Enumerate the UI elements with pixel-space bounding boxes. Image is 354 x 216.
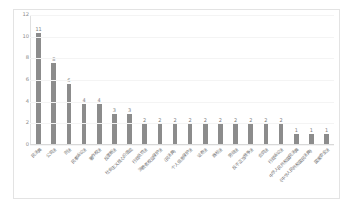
x-axis-label-column: 公司法	[46, 146, 61, 200]
bar-rect[interactable]	[127, 114, 132, 144]
plot-area: 118644332222222222111	[30, 15, 334, 145]
bar-rect[interactable]	[51, 63, 56, 144]
bar-rect[interactable]	[203, 124, 208, 144]
x-axis-tick-label: 合同法	[257, 147, 269, 159]
y-axis-tick-label: 0	[16, 142, 29, 147]
bar-value-label: 2	[258, 118, 273, 123]
bar-value-label: 2	[183, 118, 198, 123]
bar-value-label: 2	[152, 118, 167, 123]
bar-rect[interactable]	[36, 33, 41, 144]
x-axis-label-column: （民法典）	[167, 146, 182, 200]
y-axis-tick-label: 6	[16, 77, 29, 82]
bar-rect[interactable]	[264, 124, 269, 144]
bar-value-label: 1	[319, 128, 334, 133]
x-axis-tick-label: 刑法	[63, 147, 72, 156]
chart-plot-wrapper: 024681012 118644332222222222111 民法典公司法刑法…	[14, 10, 339, 198]
x-axis-label-column: 证券法	[198, 146, 213, 200]
bar-value-label: 2	[137, 118, 152, 123]
y-axis-tick-label: 4	[16, 99, 29, 104]
x-axis-label-column: 劳动法	[228, 146, 243, 200]
y-axis-tick-label: 10	[16, 34, 29, 39]
bar-value-label: 2	[228, 118, 243, 123]
bar-rect[interactable]	[188, 124, 193, 144]
x-axis-tick-label: 公司法	[45, 147, 57, 159]
x-axis-label-column: 行政处罚法	[137, 146, 152, 200]
x-axis-tick-label: 民法典	[30, 147, 42, 159]
x-axis-tick-label: 商标法	[212, 147, 224, 159]
bar-value-label: 2	[198, 118, 213, 123]
bar-rect[interactable]	[173, 124, 178, 144]
gridline	[30, 15, 334, 16]
x-axis-labels: 民法典公司法刑法民事诉讼法著作权法反垄断法社会主义核心价值观行政处罚法消费者权益…	[31, 146, 334, 200]
bar-rect[interactable]	[218, 124, 223, 144]
x-axis-label-column: 《中华人民共和国民法典》	[304, 146, 319, 200]
bar-rect[interactable]	[248, 124, 253, 144]
bar-value-label: 2	[243, 118, 258, 123]
gridline	[30, 102, 334, 103]
x-axis-label-column: 民法典	[31, 146, 46, 200]
bar-value-label: 1	[304, 128, 319, 133]
x-axis-label-column: 商标法	[213, 146, 228, 200]
x-axis-label-column: 国家安全法	[319, 146, 334, 200]
bar-rect[interactable]	[112, 114, 117, 144]
bar-rect[interactable]	[158, 124, 163, 144]
x-axis-tick-label: 劳动法	[227, 147, 239, 159]
x-axis-label-column: 民事诉讼法	[76, 146, 91, 200]
x-axis-label-column: 刑法	[61, 146, 76, 200]
bar-value-label: 3	[122, 108, 137, 113]
x-axis-label-column: 反不正当竞争法	[243, 146, 258, 200]
x-axis-label-column: 消费者权益保护法	[152, 146, 167, 200]
x-axis-label-column: 个人信息保护法	[183, 146, 198, 200]
gridline	[30, 80, 334, 81]
gridline	[30, 123, 334, 124]
x-axis-label-column: 社会主义核心价值观	[122, 146, 137, 200]
bar-rect[interactable]	[142, 124, 147, 144]
bar-value-label: 3	[107, 108, 122, 113]
bar-value-label: 2	[213, 118, 228, 123]
y-axis: 024681012	[16, 15, 29, 145]
bar-rect[interactable]	[309, 134, 314, 144]
bar-value-label: 2	[167, 118, 182, 123]
y-axis-tick-label: 8	[16, 56, 29, 61]
bar-rect[interactable]	[279, 124, 284, 144]
bar-value-label: 11	[31, 27, 46, 32]
gridline	[30, 37, 334, 38]
bar-rect[interactable]	[294, 134, 299, 144]
bar-rect[interactable]	[233, 124, 238, 144]
bar-value-label: 2	[274, 118, 289, 123]
y-axis-tick-label: 12	[16, 12, 29, 17]
bar-value-label: 1	[289, 128, 304, 133]
gridline	[30, 58, 334, 59]
chart-container: 024681012 118644332222222222111 民法典公司法刑法…	[13, 9, 340, 199]
y-axis-tick-label: 2	[16, 121, 29, 126]
bar-rect[interactable]	[324, 134, 329, 144]
bar-rect[interactable]	[67, 84, 72, 145]
x-axis-tick-label: 证券法	[197, 147, 209, 159]
